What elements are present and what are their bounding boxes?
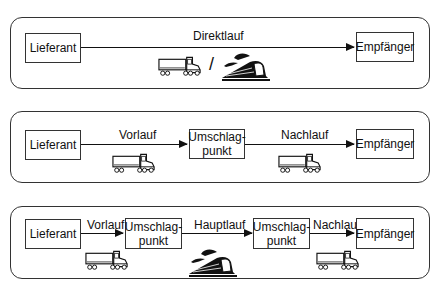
truck-icon <box>85 249 129 271</box>
edge-label-nachlauf: Nachlauf <box>313 218 360 232</box>
node-empfaenger: Empfänger <box>356 129 414 159</box>
train-icon <box>187 246 239 278</box>
truck-icon <box>278 152 322 174</box>
edge-nachlauf-arrow <box>245 144 354 145</box>
node-empfaenger: Empfänger <box>356 218 414 249</box>
node-label: Lieferant <box>30 227 77 241</box>
edge-label-nachlauf: Nachlauf <box>281 128 328 142</box>
node-label: Lieferant <box>30 138 77 152</box>
edge-nachlauf-arrow <box>310 233 354 234</box>
node-lieferant: Lieferant <box>25 130 81 160</box>
edge-label-direktlauf: Direktlauf <box>193 29 244 43</box>
truck-icon <box>158 55 202 77</box>
node-label: Lieferant <box>30 41 77 55</box>
node-label-line1: Umschlag- <box>125 220 182 234</box>
node-label: Empfänger <box>356 40 415 54</box>
node-label-line1: Umschlag- <box>253 220 310 234</box>
node-label: Empfänger <box>356 137 415 151</box>
truck-icon <box>112 152 156 174</box>
edge-vorlauf-arrow <box>81 233 123 234</box>
edge-label-hauptlauf: Hauptlauf <box>194 218 245 232</box>
edge-label-vorlauf: Vorlauf <box>119 128 156 142</box>
node-umschlagpunkt-2: Umschlag- punkt <box>253 218 310 249</box>
node-label: Empfänger <box>356 227 415 241</box>
node-umschlagpunkt-1: Umschlag- punkt <box>125 218 182 249</box>
node-lieferant: Lieferant <box>25 219 81 249</box>
separator-slash: / <box>209 54 214 75</box>
node-empfaenger: Empfänger <box>356 32 414 62</box>
node-lieferant: Lieferant <box>25 33 81 63</box>
edge-hauptlauf-arrow <box>182 233 252 234</box>
node-label-line2: punkt <box>202 144 231 158</box>
node-label-line2: punkt <box>139 234 168 248</box>
node-umschlagpunkt: Umschlag- punkt <box>189 129 245 159</box>
train-icon <box>220 50 272 82</box>
edge-label-vorlauf: Vorlauf <box>87 218 124 232</box>
node-label-line2: punkt <box>267 234 296 248</box>
top-cut <box>0 0 440 4</box>
node-label-line1: Umschlag- <box>188 130 245 144</box>
truck-icon <box>316 249 360 271</box>
edge-direktlauf-arrow <box>81 47 354 48</box>
edge-vorlauf-arrow <box>81 144 187 145</box>
